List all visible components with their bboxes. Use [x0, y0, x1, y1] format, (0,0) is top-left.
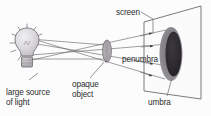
shadow-region [160, 27, 183, 81]
label-umbra: umbra [148, 98, 171, 108]
umbra-ellipse [166, 32, 182, 77]
leader-opaque [90, 62, 104, 78]
label-light-source: large source of light [6, 88, 50, 107]
label-screen: screen [116, 8, 140, 18]
light-bulb [10, 24, 42, 67]
shadow-diagram-figure: screen penumbra umbra opaque object larg… [0, 0, 211, 116]
label-penumbra: penumbra [122, 55, 158, 65]
label-opaque-object: opaque object [72, 80, 99, 99]
leader-source [29, 73, 38, 80]
leader-screen [141, 12, 153, 19]
opaque-object [103, 40, 112, 62]
